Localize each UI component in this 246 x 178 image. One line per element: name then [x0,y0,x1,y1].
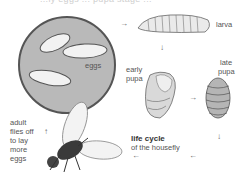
diagram-title-line1: life cycle [131,134,165,143]
arrow-left-icon: ← [132,152,140,160]
larva-illustration [138,15,209,33]
early-pupa-illustration [146,72,176,118]
arrow-right-icon: → [189,94,197,102]
label-adult-2: flies off [10,127,34,136]
label-late-pupa-1: late [220,58,232,67]
arrow-down-icon: ↓ [160,44,164,52]
label-late-pupa-2: pupa [218,67,235,76]
arrow-up-icon: ↑ [44,128,48,136]
label-eggs: eggs [85,61,101,70]
arrow-left-icon: ← [189,152,197,160]
label-adult-5: eggs [10,154,26,163]
label-adult-3: to lay [10,136,28,145]
label-early-pupa-2: pupa [126,74,143,83]
late-pupa-illustration [206,78,230,118]
label-early-pupa-1: early [126,65,142,74]
label-adult-4: more [10,145,27,154]
label-adult-1: adult [10,118,26,127]
arrow-right-icon: → [120,20,128,28]
arrow-down-icon: ↓ [217,133,221,141]
label-larva: larva [216,20,232,29]
